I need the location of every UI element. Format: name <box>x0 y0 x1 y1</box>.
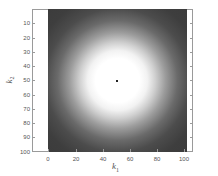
x-axis-label-sub: 1 <box>116 167 119 173</box>
ytick-right-90 <box>190 137 193 138</box>
ytick-right-40 <box>190 66 193 67</box>
xtick-100 <box>184 149 185 152</box>
ytick-30 <box>32 52 35 53</box>
ytick-right-50 <box>190 80 193 81</box>
ytick-label: 30 <box>16 49 30 55</box>
ytick-right-60 <box>190 95 193 96</box>
ytick-label: 10 <box>16 20 30 26</box>
ytick-label: 100 <box>16 149 30 155</box>
xtick-label: 40 <box>95 156 111 162</box>
y-axis-label: k2 <box>4 76 16 83</box>
xtick-40 <box>103 149 104 152</box>
ytick-label: 70 <box>16 106 30 112</box>
xtick-20 <box>76 149 77 152</box>
xtick-label: 80 <box>149 156 165 162</box>
xtick-label: 0 <box>40 156 56 162</box>
y-axis-label-base: k <box>4 79 14 83</box>
ytick-label: 40 <box>16 63 30 69</box>
ytick-right-70 <box>190 109 193 110</box>
ytick-50 <box>32 80 35 81</box>
xtick-80 <box>157 149 158 152</box>
x-axis-label: k1 <box>112 161 119 173</box>
center-marker <box>116 80 118 82</box>
xtick-label: 60 <box>122 156 138 162</box>
ytick-label: 90 <box>16 134 30 140</box>
ytick-10 <box>32 23 35 24</box>
ytick-80 <box>32 123 35 124</box>
xtick-60 <box>130 149 131 152</box>
ytick-70 <box>32 109 35 110</box>
y-axis-label-sub: 2 <box>9 76 15 79</box>
ytick-90 <box>32 137 35 138</box>
ytick-40 <box>32 66 35 67</box>
figure: 10 20 30 40 50 60 70 80 90 100 0 20 40 6… <box>0 0 218 176</box>
ytick-label: 60 <box>16 92 30 98</box>
ytick-60 <box>32 95 35 96</box>
ytick-right-80 <box>190 123 193 124</box>
ytick-label: 80 <box>16 120 30 126</box>
ytick-label: 50 <box>16 77 30 83</box>
ytick-right-20 <box>190 38 193 39</box>
ytick-label: 20 <box>16 35 30 41</box>
xtick-label: 20 <box>68 156 84 162</box>
xtick-0 <box>48 149 49 152</box>
ytick-20 <box>32 38 35 39</box>
xtick-label: 100 <box>176 156 192 162</box>
ytick-right-10 <box>190 23 193 24</box>
ytick-right-30 <box>190 52 193 53</box>
